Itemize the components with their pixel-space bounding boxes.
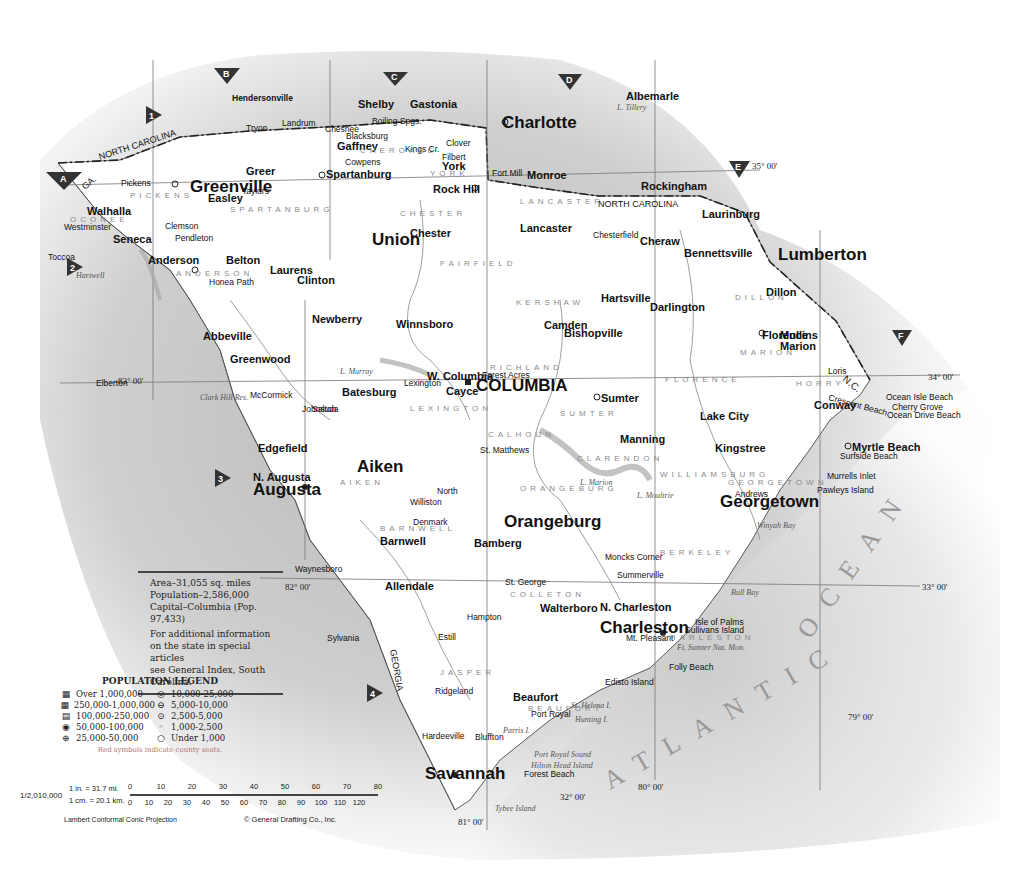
svg-text:Hunting I.: Hunting I. xyxy=(574,715,608,724)
copyright-label: © General Drafting Co., Inc. xyxy=(244,815,337,824)
legend-item: ○Under 1,000 xyxy=(155,733,250,743)
svg-text:Estill: Estill xyxy=(438,632,456,642)
svg-text:Abbeville: Abbeville xyxy=(203,330,252,342)
svg-text:Savannah: Savannah xyxy=(425,764,505,783)
svg-text:Bishopville: Bishopville xyxy=(564,327,623,339)
svg-text:CHESTER: CHESTER xyxy=(400,209,466,218)
svg-text:Albemarle: Albemarle xyxy=(626,90,679,102)
svg-text:Winyah Bay: Winyah Bay xyxy=(757,521,796,530)
svg-text:Hartwell: Hartwell xyxy=(75,271,105,280)
note-line-2: on the state in special articles xyxy=(150,640,283,664)
population-symbol-icon: ◉ xyxy=(60,722,72,732)
svg-text:1: 1 xyxy=(149,111,154,121)
svg-text:OCONEE: OCONEE xyxy=(70,215,129,224)
svg-text:PICKENS: PICKENS xyxy=(130,191,193,200)
svg-text:A: A xyxy=(60,174,67,184)
grid-marker-e: E xyxy=(729,161,750,178)
note-line-1: For additional information xyxy=(150,628,283,640)
svg-text:HORRY: HORRY xyxy=(796,379,845,388)
svg-text:BERKELEY: BERKELEY xyxy=(660,548,734,557)
svg-text:Andrews: Andrews xyxy=(735,489,768,499)
svg-text:AIKEN: AIKEN xyxy=(340,478,384,487)
svg-text:34° 00': 34° 00' xyxy=(928,372,954,382)
area-text: Area–31,055 sq. miles xyxy=(150,577,283,589)
svg-text:Walterboro: Walterboro xyxy=(540,602,598,614)
svg-text:L. Tillery: L. Tillery xyxy=(616,103,647,112)
svg-text:Clemson: Clemson xyxy=(165,221,199,231)
svg-text:Bamberg: Bamberg xyxy=(474,537,522,549)
svg-text:Parris I.: Parris I. xyxy=(502,726,530,735)
svg-text:Hilton Head Island: Hilton Head Island xyxy=(530,761,594,770)
city-charlotte: Charlotte xyxy=(502,113,577,132)
city-savannah: Savannah xyxy=(425,764,505,783)
svg-text:ANDERSON: ANDERSON xyxy=(176,269,253,278)
svg-text:Batesburg: Batesburg xyxy=(342,386,396,398)
svg-text:CHEROKEE: CHEROKEE xyxy=(360,146,437,155)
svg-text:80° 00': 80° 00' xyxy=(638,782,664,792)
svg-text:Monroe: Monroe xyxy=(527,169,567,181)
svg-text:CLARENDON: CLARENDON xyxy=(577,454,663,463)
svg-text:C: C xyxy=(391,72,398,82)
population-symbol-icon: ◦ xyxy=(155,722,167,732)
svg-text:Manning: Manning xyxy=(620,433,665,445)
population-symbol-icon: ⊙ xyxy=(155,711,167,721)
population-symbol-icon: ▦ xyxy=(60,689,72,699)
svg-text:Bennettsville: Bennettsville xyxy=(684,247,752,259)
info-top-rule xyxy=(138,571,283,573)
svg-text:LANCASTER: LANCASTER xyxy=(520,197,604,206)
svg-text:North: North xyxy=(437,486,458,496)
svg-text:JASPER: JASPER xyxy=(440,668,495,677)
svg-text:Laurinburg: Laurinburg xyxy=(702,208,760,220)
svg-text:NORTH CAROLINA: NORTH CAROLINA xyxy=(598,199,678,209)
svg-text:Easley: Easley xyxy=(208,192,244,204)
legend-note: Red symbols indicate county seats. xyxy=(60,746,260,754)
legend-item: ▦250,000-1,000,000 xyxy=(60,700,155,710)
population-text: Population–2,586,000 xyxy=(150,589,283,601)
svg-text:Shelby: Shelby xyxy=(358,98,395,110)
svg-text:Orangeburg: Orangeburg xyxy=(504,512,601,531)
population-symbol-icon: ◎ xyxy=(155,689,167,699)
svg-text:FLORENCE: FLORENCE xyxy=(665,375,741,384)
svg-text:Allendale: Allendale xyxy=(385,580,434,592)
svg-text:Summerville: Summerville xyxy=(617,570,664,580)
svg-text:Beaufort: Beaufort xyxy=(513,691,559,703)
svg-text:82° 00': 82° 00' xyxy=(285,582,311,592)
svg-text:CALHOUN: CALHOUN xyxy=(488,430,555,439)
svg-text:Toccoa: Toccoa xyxy=(48,252,75,262)
svg-text:Moncks Corner: Moncks Corner xyxy=(605,552,663,562)
city-rock-hill: Rock Hill xyxy=(433,183,480,195)
svg-text:Greenwood: Greenwood xyxy=(230,353,291,365)
svg-text:Hampton: Hampton xyxy=(467,612,502,622)
svg-text:Newberry: Newberry xyxy=(312,313,363,325)
population-symbol-icon: ⊕ xyxy=(60,733,72,743)
svg-text:YORK: YORK xyxy=(430,169,469,178)
svg-text:Boiling Spgs.: Boiling Spgs. xyxy=(372,116,422,126)
svg-text:RICHLAND: RICHLAND xyxy=(490,363,563,372)
svg-text:SUMTER: SUMTER xyxy=(560,409,618,418)
svg-text:Charlotte: Charlotte xyxy=(502,113,577,132)
svg-text:CHARLESTON: CHARLESTON xyxy=(660,633,755,642)
svg-text:LEXINGTON: LEXINGTON xyxy=(410,404,492,413)
svg-text:Seneca: Seneca xyxy=(113,233,152,245)
population-symbol-icon: ⊖ xyxy=(155,700,167,710)
legend-item: ◉50,000-100,000 xyxy=(60,722,155,732)
svg-text:COLLETON: COLLETON xyxy=(510,590,585,599)
svg-text:Rock Hill: Rock Hill xyxy=(433,183,480,195)
svg-text:Williston: Williston xyxy=(410,497,442,507)
svg-text:2: 2 xyxy=(70,263,75,273)
svg-text:D: D xyxy=(566,75,573,85)
svg-text:Bluffton: Bluffton xyxy=(475,732,504,742)
svg-text:Pendleton: Pendleton xyxy=(175,233,214,243)
svg-text:Cayce: Cayce xyxy=(446,385,478,397)
svg-text:Elberton: Elberton xyxy=(96,378,128,388)
svg-text:Edisto Island: Edisto Island xyxy=(605,677,654,687)
svg-text:BARNWELL: BARNWELL xyxy=(380,524,456,533)
svg-text:3: 3 xyxy=(218,474,223,484)
svg-text:Greer: Greer xyxy=(246,165,276,177)
svg-text:MARION: MARION xyxy=(740,348,796,357)
svg-text:Belton: Belton xyxy=(226,254,261,266)
capital-text: Capital–Columbia (Pop. 97,433) xyxy=(150,601,283,625)
svg-text:F: F xyxy=(898,331,904,341)
legend-item: ▦Over 1,000,000 xyxy=(60,689,155,699)
svg-text:Winnsboro: Winnsboro xyxy=(396,318,454,330)
